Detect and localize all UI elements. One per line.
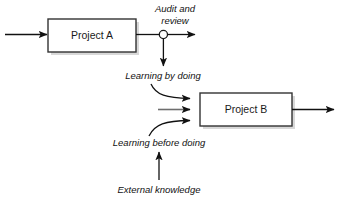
node-project-b[interactable]: Project B xyxy=(200,93,295,129)
label-learning-before-doing: Learning before doing xyxy=(113,137,206,148)
label-external-knowledge: External knowledge xyxy=(118,184,201,195)
project-b-label: Project B xyxy=(225,103,268,115)
edge-learning-before-doing-to-project-b xyxy=(149,121,190,137)
audit-and-review-line1: Audit and xyxy=(154,3,196,14)
node-project-a[interactable]: Project A xyxy=(48,19,139,55)
audit-junction-circle[interactable] xyxy=(159,30,167,38)
audit-and-review-line2: review xyxy=(161,15,190,26)
label-learning-by-doing: Learning by doing xyxy=(125,70,201,81)
diagram-svg: Project A Audit and review Learning by d… xyxy=(0,0,342,203)
diagram-canvas: Project A Audit and review Learning by d… xyxy=(0,0,342,203)
edge-learning-by-doing-to-project-b xyxy=(151,84,190,99)
project-a-label: Project A xyxy=(71,29,113,41)
label-audit-and-review: Audit and review xyxy=(154,3,196,26)
